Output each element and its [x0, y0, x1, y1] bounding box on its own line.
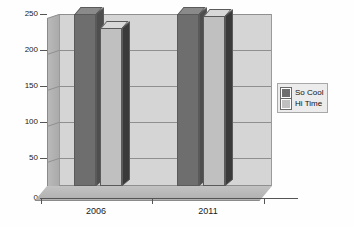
y-axis-tick-150: 150 — [6, 86, 38, 87]
y-axis-tick-label: 200 — [25, 46, 38, 54]
y-axis-tick-mark — [40, 158, 47, 159]
y-axis-tick-0: 0 — [6, 198, 38, 199]
chart-legend: So Cool Hi Time — [277, 83, 328, 113]
y-axis-tick-mark — [40, 86, 47, 87]
bar-so-cool-2006 — [74, 14, 96, 186]
legend-swatch-icon — [281, 99, 291, 109]
legend-item-so-cool[interactable]: So Cool — [281, 87, 323, 98]
y-axis-tick-label: 50 — [29, 154, 38, 162]
bar-chart: 250 200 150 100 50 0 — [0, 0, 354, 227]
bar-hi-time-2011 — [203, 16, 225, 186]
bar-front-face — [74, 14, 96, 186]
y-axis-tick-label: 150 — [25, 82, 38, 90]
y-axis-tick-label: 100 — [25, 118, 38, 126]
y-axis-tick-50: 50 — [6, 158, 38, 159]
plot-area — [47, 14, 272, 198]
bar-front-face — [203, 16, 225, 186]
x-axis-tick — [41, 198, 42, 204]
y-axis-tick-200: 200 — [6, 50, 38, 51]
x-axis-tick — [152, 198, 153, 204]
x-axis-label-2011: 2011 — [178, 206, 238, 216]
y-axis-tick-mark — [40, 122, 47, 123]
x-axis-tick — [264, 198, 265, 204]
y-axis-tick-250: 250 — [6, 14, 38, 15]
y-axis-tick-100: 100 — [6, 122, 38, 123]
y-axis-tick-mark — [40, 14, 47, 15]
bar-front-face — [100, 28, 122, 186]
y-axis-tick-label: 250 — [25, 10, 38, 18]
bar-side-face — [225, 9, 233, 186]
x-axis-label-2006: 2006 — [66, 206, 126, 216]
bar-front-face — [177, 14, 199, 186]
y-axis-tick-mark — [40, 50, 47, 51]
bar-side-face — [122, 21, 130, 186]
legend-label: So Cool — [295, 88, 323, 97]
legend-item-hi-time[interactable]: Hi Time — [281, 98, 323, 109]
bar-so-cool-2011 — [177, 14, 199, 186]
legend-label: Hi Time — [295, 99, 322, 108]
legend-swatch-icon — [281, 88, 291, 98]
bar-hi-time-2006 — [100, 28, 122, 186]
x-axis-line — [40, 198, 298, 199]
